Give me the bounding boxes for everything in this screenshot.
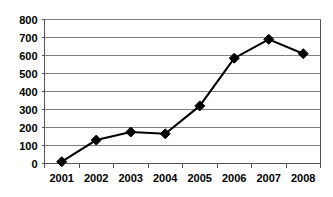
data-point-marker [126, 127, 136, 137]
data-point-marker [264, 34, 274, 44]
x-axis-label: 2001 [50, 172, 74, 184]
data-point-marker [91, 135, 101, 145]
y-axis-label: 300 [19, 104, 37, 116]
y-axis-label: 700 [19, 32, 37, 44]
x-axis-tick-labels: 20012002200320042005200620072008 [50, 172, 316, 184]
x-axis-label: 2006 [222, 172, 246, 184]
x-axis-label: 2002 [84, 172, 108, 184]
y-axis-label: 0 [31, 158, 37, 170]
x-axis-label: 2008 [291, 172, 315, 184]
y-axis-label: 500 [19, 68, 37, 80]
chart-canvas: 8007006005004003002001000 20012002200320… [0, 0, 333, 197]
data-point-markers [57, 34, 309, 166]
y-axis-label: 600 [19, 50, 37, 62]
x-axis-label: 2005 [188, 172, 212, 184]
x-axis-label: 2007 [257, 172, 281, 184]
y-axis-label: 400 [19, 86, 37, 98]
x-axis-label: 2004 [153, 172, 178, 184]
data-point-marker [57, 157, 67, 167]
y-axis-label: 200 [19, 122, 37, 134]
y-axis-label: 100 [19, 140, 37, 152]
gridlines [45, 20, 321, 164]
data-point-marker [298, 49, 308, 59]
line-chart: 8007006005004003002001000 20012002200320… [0, 0, 333, 197]
x-axis-label: 2003 [119, 172, 143, 184]
y-axis-tick-labels: 8007006005004003002001000 [19, 14, 37, 170]
y-axis-label: 800 [19, 14, 37, 26]
